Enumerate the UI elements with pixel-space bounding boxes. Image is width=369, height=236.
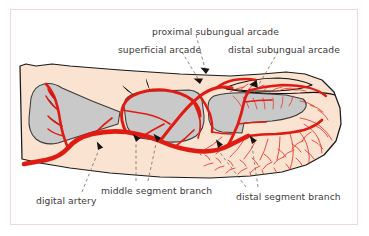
label-distal-subungual-arcade: distal subungual arcade	[228, 45, 340, 55]
label-middle-segment-branch: middle segment branch	[101, 186, 212, 196]
label-distal-segment-branch: distal segment branch	[236, 192, 341, 202]
label-proximal-subungual-arcade: proximal subungual arcade	[152, 27, 279, 37]
finger-artery-diagram: proximal subungual arcade superficial ar…	[0, 0, 369, 236]
label-superficial-arcade: superficial arcade	[118, 45, 201, 55]
label-digital-artery: digital artery	[36, 196, 96, 206]
arrow-proximal-subungual-arcade	[200, 67, 209, 74]
